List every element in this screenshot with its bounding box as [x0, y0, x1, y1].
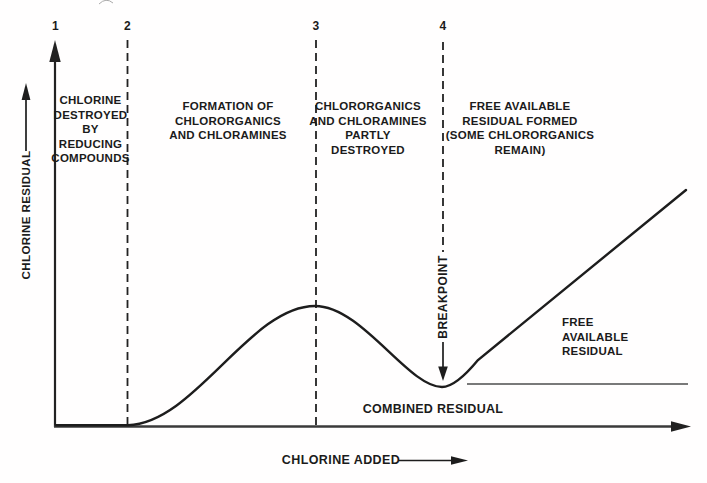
x-axis-label: CHLORINE ADDED — [282, 453, 400, 467]
zone-marker-1: 1 — [52, 20, 59, 32]
plot-canvas — [0, 0, 707, 483]
x-axis-arrowhead-icon — [671, 421, 691, 431]
chlorine-residual-curve — [56, 190, 686, 425]
x-label-arrowhead-icon — [451, 456, 468, 465]
breakpoint-chlorination-diagram: 1 2 3 4 CHLORINE DESTROYED BY REDUCING C… — [0, 0, 707, 483]
y-axis-arrowhead-icon — [49, 40, 60, 62]
free-available-residual-annotation: FREE AVAILABLE RESIDUAL — [562, 315, 628, 359]
scan-artifact — [99, 0, 113, 4]
zone-label-chlorine-destroyed: CHLORINE DESTROYED BY REDUCING COMPOUNDS — [51, 93, 129, 166]
zone-label-free-residual-formed: FREE AVAILABLE RESIDUAL FORMED (SOME CHL… — [446, 99, 595, 157]
zone-label-formation-chlororganics: FORMATION OF CHLORORGANICS AND CHLORAMIN… — [169, 99, 286, 143]
zone-label-partly-destroyed: CHLORORGANICS AND CHLORAMINES PARTLY DES… — [309, 99, 426, 157]
y-axis-label: CHLORINE RESIDUAL — [20, 151, 32, 280]
breakpoint-annotation: BREAKPOINT — [436, 255, 450, 338]
combined-residual-annotation: COMBINED RESIDUAL — [363, 402, 504, 416]
y-label-arrowhead-icon — [22, 83, 31, 100]
zone-marker-3: 3 — [313, 20, 320, 32]
breakpoint-arrowhead-icon — [438, 367, 448, 382]
zone-marker-2: 2 — [124, 20, 131, 32]
zone-marker-4: 4 — [440, 20, 447, 32]
